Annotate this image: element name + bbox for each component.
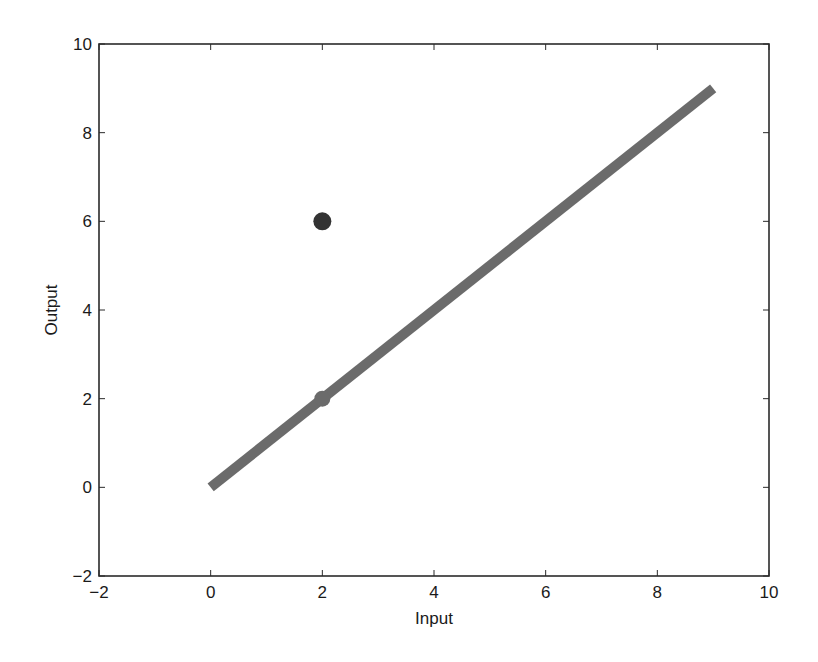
x-tick-label: 2 <box>318 583 327 602</box>
y-tick-label: 0 <box>83 478 92 497</box>
x-tick-label: 4 <box>429 583 438 602</box>
x-tick-label: 8 <box>653 583 662 602</box>
data-point-point-off-line <box>313 212 331 230</box>
series-line <box>211 88 714 487</box>
x-tick-label: 10 <box>760 583 779 602</box>
plot-svg: −20246810−20246810 Input Output <box>0 0 818 662</box>
chart-figure: −20246810−20246810 Input Output <box>0 0 818 662</box>
y-tick-label: 2 <box>83 390 92 409</box>
y-axis-label: Output <box>42 284 61 335</box>
y-tick-label: −2 <box>73 567 92 586</box>
y-tick-label: 10 <box>73 35 92 54</box>
series-layer <box>211 88 714 487</box>
x-tick-label: 0 <box>206 583 215 602</box>
y-tick-label: 8 <box>83 124 92 143</box>
x-axis-label: Input <box>415 609 453 628</box>
y-tick-label: 6 <box>83 212 92 231</box>
y-tick-label: 4 <box>83 301 92 320</box>
data-point-point-on-line <box>314 391 330 407</box>
x-tick-label: 6 <box>541 583 550 602</box>
x-tick-label: −2 <box>89 583 108 602</box>
